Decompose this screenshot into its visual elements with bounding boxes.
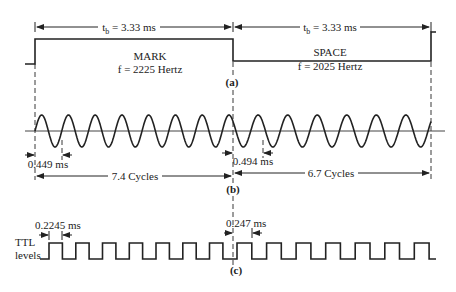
mark-cycles-label: 7.4 Cycles <box>112 170 158 182</box>
panel-a-label: (a) <box>226 76 239 89</box>
mark-period-label: 0.449 ms <box>28 158 68 170</box>
data-waveform <box>25 32 436 64</box>
space-bit-time-label: tb = 3.33 ms <box>303 21 357 36</box>
ttl-label-line2: levels <box>15 249 41 261</box>
panel-a: tb = 3.33 ms tb = 3.33 ms MARK f = 2225 … <box>25 21 436 89</box>
space-period-label: 0.494 ms <box>233 155 273 167</box>
ttl-square-wave <box>40 243 436 259</box>
space-title: SPACE <box>313 46 347 58</box>
space-cycles-label: 6.7 Cycles <box>308 167 354 179</box>
mark-half-period-label: 0.2245 ms <box>35 219 81 231</box>
mark-frequency: f = 2225 Hertz <box>118 63 183 75</box>
space-half-period-label: 0.247 ms <box>226 217 266 229</box>
panel-b-label: (b) <box>226 183 240 196</box>
ttl-label-line1: TTL <box>15 236 35 248</box>
mark-bit-time-label: tb = 3.33 ms <box>102 21 156 36</box>
panel-c-label: (c) <box>230 264 243 277</box>
panel-c: TTL levels 0.2245 ms 0.247 ms (c) <box>15 217 436 277</box>
mark-title: MARK <box>133 50 166 62</box>
space-frequency: f = 2025 Hertz <box>298 60 363 72</box>
fsk-timing-diagram: tb = 3.33 ms tb = 3.33 ms MARK f = 2225 … <box>0 0 456 292</box>
panel-b: 0.449 ms 0.494 ms 7.4 Cycles 6.7 Cycles … <box>25 115 445 196</box>
